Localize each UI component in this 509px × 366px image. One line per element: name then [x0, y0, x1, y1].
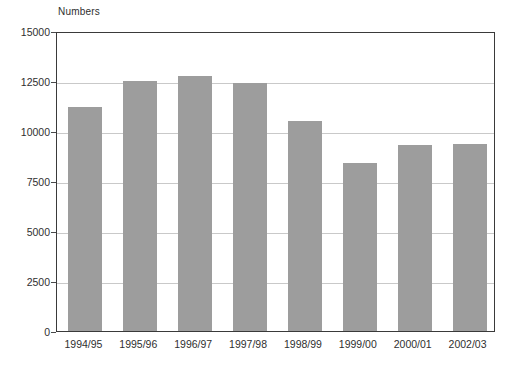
plot-area — [56, 32, 495, 332]
x-tick-label-1999-00: 1999/00 — [330, 338, 385, 350]
bar-2002-03 — [453, 144, 487, 331]
y-tick-label-2500: 2500 — [0, 276, 50, 288]
x-axis-labels: 1994/951995/961996/971997/981998/991999/… — [56, 336, 495, 360]
bar-2000-01 — [398, 145, 432, 331]
x-tick-label-1995-96: 1995/96 — [111, 338, 166, 350]
bar-1996-97 — [178, 76, 212, 331]
x-tick-label-1998-99: 1998/99 — [276, 338, 331, 350]
x-tick-label-1997-98: 1997/98 — [221, 338, 276, 350]
y-tick-label-7500: 7500 — [0, 176, 50, 188]
y-axis-title: Numbers — [58, 6, 100, 17]
bar-1995-96 — [123, 81, 157, 331]
bar-chart-figure: Numbers 0250050007500100001250015000 199… — [0, 0, 509, 366]
x-tick-label-2000-01: 2000/01 — [385, 338, 440, 350]
x-tick-label-1996-97: 1996/97 — [166, 338, 221, 350]
x-tick-label-1994-95: 1994/95 — [56, 338, 111, 350]
bar-1997-98 — [233, 83, 267, 331]
bar-1998-99 — [288, 121, 322, 331]
bar-1994-95 — [68, 107, 102, 331]
y-tick-mark-0 — [51, 332, 56, 333]
x-tick-label-2002-03: 2002/03 — [440, 338, 495, 350]
bars-group — [57, 33, 494, 331]
bar-1999-00 — [343, 163, 377, 331]
y-tick-label-0: 0 — [0, 326, 50, 338]
y-tick-label-15000: 15000 — [0, 26, 50, 38]
y-tick-label-12500: 12500 — [0, 76, 50, 88]
y-tick-label-5000: 5000 — [0, 226, 50, 238]
y-axis-labels: 0250050007500100001250015000 — [0, 32, 50, 332]
y-tick-label-10000: 10000 — [0, 126, 50, 138]
